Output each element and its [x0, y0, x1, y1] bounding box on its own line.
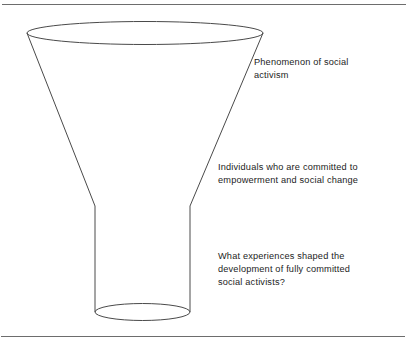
annotation-individuals: Individuals who are committed to empower…	[218, 161, 404, 187]
neck-bottom-ellipse	[95, 304, 190, 321]
cone-left-wall	[27, 33, 95, 206]
annotation-phenomenon: Phenomenon of social activism	[254, 56, 400, 82]
annotation-research-question: What experiences shaped the development …	[218, 250, 404, 290]
funnel-diagram-figure: Phenomenon of social activism Individual…	[0, 0, 408, 348]
bottom-divider-rule	[1, 336, 405, 337]
funnel-top-ellipse	[27, 22, 263, 45]
